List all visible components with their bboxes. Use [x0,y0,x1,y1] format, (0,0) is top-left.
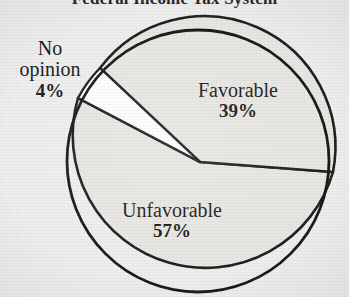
pie-label-no-opinion-name-line1: No [2,38,98,59]
chart-title: Federal Income Tax System [0,0,349,9]
pie-label-favorable-name: Favorable [178,80,298,100]
pie-label-unfavorable: Unfavorable 57% [92,200,252,241]
pie-label-unfavorable-pct: 57% [92,221,252,240]
pie-label-favorable: Favorable 39% [178,80,298,121]
pie-label-favorable-pct: 39% [178,101,298,120]
pie-label-no-opinion: No opinion 4% [2,38,98,100]
pie-label-no-opinion-pct: 4% [2,81,98,100]
pie-label-unfavorable-name: Unfavorable [92,200,252,220]
pie-label-no-opinion-name-line2: opinion [2,59,98,80]
